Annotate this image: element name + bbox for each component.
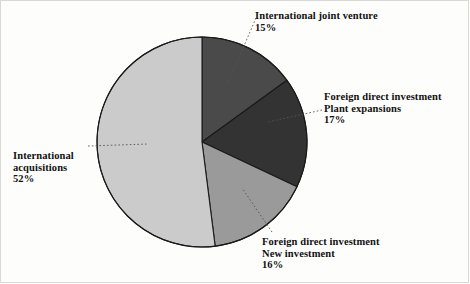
pie-chart-canvas bbox=[0, 0, 470, 284]
slice-label-plant-expansions-line1: Foreign direct investment bbox=[324, 91, 442, 103]
slice-label-new-investment-line2: New investment bbox=[262, 248, 380, 260]
pie-slice-acquisitions[interactable] bbox=[97, 37, 215, 247]
slice-label-joint-venture: International joint venture 15% bbox=[255, 10, 378, 33]
slice-label-new-investment: Foreign direct investment New investment… bbox=[262, 236, 380, 271]
pie-chart-figure: International joint venture 15% Foreign … bbox=[0, 0, 470, 284]
pie-slices bbox=[97, 37, 307, 247]
slice-label-plant-expansions-value: 17% bbox=[324, 114, 442, 126]
slice-label-acquisitions: International acquisitions 52% bbox=[13, 150, 74, 185]
slice-label-acquisitions-line1: International bbox=[13, 150, 74, 162]
slice-label-plant-expansions: Foreign direct investment Plant expansio… bbox=[324, 91, 442, 126]
slice-label-acquisitions-value: 52% bbox=[13, 173, 74, 185]
slice-label-new-investment-line1: Foreign direct investment bbox=[262, 236, 380, 248]
slice-label-new-investment-value: 16% bbox=[262, 259, 380, 271]
slice-label-joint-venture-value: 15% bbox=[255, 22, 378, 34]
slice-label-plant-expansions-line2: Plant expansions bbox=[324, 103, 442, 115]
slice-label-acquisitions-line2: acquisitions bbox=[13, 162, 74, 174]
slice-label-joint-venture-line1: International joint venture bbox=[255, 10, 378, 22]
